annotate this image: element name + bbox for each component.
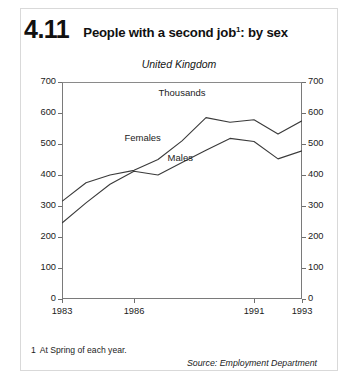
y-axis-tick-mark	[302, 82, 306, 83]
x-axis-tick-mark	[302, 299, 303, 303]
y-axis-tick-label: 600	[40, 108, 56, 117]
y-axis-tick-mark	[58, 206, 62, 207]
y-axis-tick-label: 0	[51, 294, 56, 303]
x-axis-tick-mark	[134, 299, 135, 303]
figure-title-main: People with a second job	[83, 25, 236, 40]
y-axis-tick-label: 400	[40, 170, 56, 179]
y-axis-tick-mark	[58, 175, 62, 176]
x-axis-tick-mark	[254, 299, 255, 303]
figure-page: 4.11 People with a second job1: by sex U…	[0, 0, 348, 382]
y-axis-tick-label: 400	[308, 170, 324, 179]
y-axis-tick-label: 500	[308, 139, 324, 148]
source-note: Source: Employment Department	[187, 358, 317, 368]
y-axis-tick-mark	[58, 237, 62, 238]
footnote: 1At Spring of each year.	[31, 345, 127, 355]
y-axis-tick-label: 200	[308, 232, 324, 241]
y-axis-tick-label: 300	[40, 201, 56, 210]
y-axis-tick-mark	[302, 144, 306, 145]
y-axis-tick-mark	[302, 268, 306, 269]
chart-subtitle: United Kingdom	[27, 58, 331, 70]
series-lines	[62, 82, 302, 299]
series-label-males: Males	[168, 152, 193, 163]
series-label-females: Females	[124, 132, 160, 143]
chart-container: United Kingdom Thousands 001001002002003…	[27, 58, 331, 338]
x-axis-tick-label: 1983	[52, 306, 73, 316]
plot-area: Thousands 001001002002003003004004005005…	[62, 82, 302, 299]
figure-number: 4.11	[24, 14, 69, 44]
y-axis-tick-mark	[58, 113, 62, 114]
y-axis-tick-mark	[58, 268, 62, 269]
footnote-text: At Spring of each year.	[40, 345, 127, 355]
figure-title-suffix: : by sex	[240, 25, 288, 40]
y-axis-tick-label: 100	[308, 263, 324, 272]
x-axis-tick-label: 1993	[292, 306, 313, 316]
y-axis-tick-mark	[302, 113, 306, 114]
y-axis-tick-mark	[302, 206, 306, 207]
y-axis-tick-label: 700	[40, 77, 56, 86]
x-axis-tick-mark	[62, 299, 63, 303]
y-axis-tick-label: 600	[308, 108, 324, 117]
y-axis-tick-mark	[302, 175, 306, 176]
y-axis-tick-mark	[58, 82, 62, 83]
y-axis-tick-mark	[302, 237, 306, 238]
figure-title: People with a second job1: by sex	[83, 14, 288, 41]
x-axis-tick-label: 1986	[124, 306, 145, 316]
y-axis-tick-label: 0	[308, 294, 313, 303]
y-axis-tick-label: 200	[40, 232, 56, 241]
y-axis-tick-label: 100	[40, 263, 56, 272]
x-axis-tick-label: 1991	[244, 306, 265, 316]
y-axis-tick-mark	[58, 144, 62, 145]
y-axis-tick-label: 300	[308, 201, 324, 210]
figure-header: 4.11 People with a second job1: by sex	[24, 14, 336, 54]
y-axis-tick-label: 500	[40, 139, 56, 148]
footnote-number: 1	[31, 345, 36, 355]
y-axis-tick-label: 700	[308, 77, 324, 86]
